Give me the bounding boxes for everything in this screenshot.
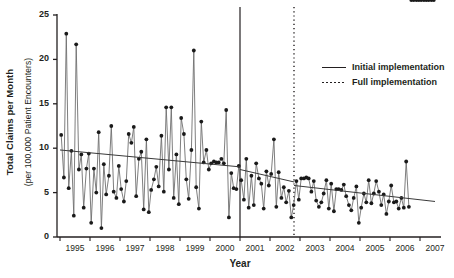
x-axis-tick-label: 2003: [298, 243, 332, 253]
data-point: [77, 168, 81, 172]
data-point: [82, 206, 86, 210]
data-point: [359, 206, 363, 210]
data-point: [227, 216, 231, 220]
data-point: [259, 182, 263, 186]
data-point: [152, 177, 156, 181]
data-point: [115, 196, 119, 200]
data-point: [332, 209, 336, 213]
data-point: [367, 178, 371, 182]
data-point: [394, 200, 398, 204]
data-point: [239, 178, 243, 182]
data-point: [64, 32, 68, 36]
data-point: [172, 196, 176, 200]
data-point: [374, 179, 378, 183]
data-point: [314, 199, 318, 203]
plot-area: [0, 0, 454, 278]
data-point: [247, 206, 251, 210]
data-point: [252, 203, 256, 207]
data-point: [295, 179, 299, 183]
data-point: [289, 216, 293, 220]
y-axis-tick-label: 0: [27, 231, 49, 241]
data-point: [269, 172, 273, 176]
data-point: [139, 150, 143, 154]
data-point: [179, 116, 183, 120]
data-point: [164, 105, 168, 109]
chart-figure: Total Claims per Month (per 100,000 Pati…: [0, 0, 454, 278]
y-axis-tick-label: 25: [27, 9, 49, 19]
data-point: [182, 132, 186, 136]
data-point: [194, 185, 198, 189]
data-point: [145, 137, 149, 141]
data-point: [124, 179, 128, 183]
data-point: [59, 133, 63, 137]
x-axis-tick-label: 2007: [418, 243, 452, 253]
data-point: [364, 200, 368, 204]
data-point: [387, 200, 391, 204]
y-axis-tick-label: 15: [27, 98, 49, 108]
data-point: [177, 202, 181, 206]
data-point: [102, 162, 106, 166]
data-point: [117, 164, 121, 168]
data-point: [389, 184, 393, 188]
legend-item-1: Initial implementation: [322, 62, 445, 72]
data-point: [109, 124, 113, 128]
x-axis-tick-label: 2005: [358, 243, 392, 253]
data-point: [402, 206, 406, 210]
data-point: [312, 179, 316, 183]
x-axis-tick-label: 1995: [58, 243, 92, 253]
data-point: [207, 168, 211, 172]
legend-key-solid-icon: [322, 63, 346, 72]
data-point: [190, 148, 194, 152]
data-point: [67, 186, 71, 190]
x-axis-tick-label: 2002: [268, 243, 302, 253]
data-point: [224, 108, 228, 112]
data-point: [404, 160, 408, 164]
data-point: [72, 214, 76, 218]
data-point: [257, 176, 261, 180]
data-point: [379, 203, 383, 207]
data-point: [250, 174, 254, 178]
data-point: [92, 167, 96, 171]
x-axis-tick-label: 2006: [388, 243, 422, 253]
data-point: [397, 207, 401, 211]
data-point: [112, 190, 116, 194]
data-point: [432, 0, 436, 2]
data-point: [167, 168, 171, 172]
data-point: [325, 178, 329, 182]
legend-key-dotted-icon: [322, 78, 346, 87]
x-axis-title: Year: [180, 258, 300, 269]
data-point: [132, 125, 136, 129]
x-axis-tick-label: 2000: [208, 243, 242, 253]
x-axis-tick-label: 1999: [178, 243, 212, 253]
data-point: [122, 200, 126, 204]
data-point: [347, 203, 351, 207]
data-point: [407, 205, 411, 209]
data-point: [327, 207, 331, 211]
legend-label: Full implementation: [352, 77, 437, 87]
data-point: [344, 194, 348, 198]
data-point: [385, 212, 389, 216]
data-point: [280, 196, 284, 200]
data-point: [307, 176, 311, 180]
data-point: [142, 208, 146, 212]
data-point: [267, 184, 271, 188]
data-point: [160, 134, 164, 138]
x-axis-tick-label: 2001: [238, 243, 272, 253]
data-point: [357, 221, 361, 225]
data-point: [130, 141, 134, 145]
data-point: [322, 192, 326, 196]
data-point: [235, 187, 239, 191]
x-axis-tick-label: 2004: [328, 243, 362, 253]
data-point: [97, 130, 101, 134]
legend-label: Initial implementation: [352, 62, 445, 72]
data-point: [149, 188, 153, 192]
data-point: [265, 169, 269, 173]
data-point: [282, 185, 286, 189]
data-point: [349, 208, 353, 212]
data-point: [274, 205, 278, 209]
data-point: [187, 197, 191, 201]
data-point: [100, 226, 104, 230]
data-point: [310, 190, 314, 194]
data-point: [62, 176, 66, 180]
x-axis-tick-label: 1997: [118, 243, 152, 253]
